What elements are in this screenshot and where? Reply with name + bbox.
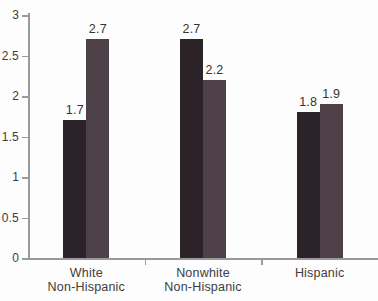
bar-value-label: 1.8 — [299, 95, 317, 109]
bar — [297, 112, 320, 258]
x-tick — [145, 258, 147, 265]
bar-value-label: 1.9 — [322, 87, 340, 101]
bar-value-label: 1.7 — [66, 103, 84, 117]
y-tick — [22, 258, 28, 260]
y-tick — [22, 218, 28, 220]
y-tick — [22, 137, 28, 139]
y-tick-label: 0.5 — [0, 210, 19, 224]
y-axis-line — [28, 13, 30, 258]
y-tick — [22, 15, 28, 17]
y-tick-label: 2 — [0, 89, 19, 103]
category-label: Nonwhite Non-Hispanic — [145, 266, 262, 294]
bar-value-label: 2.7 — [183, 22, 201, 36]
bar — [203, 80, 226, 258]
bar — [180, 39, 203, 258]
y-tick — [22, 177, 28, 179]
y-tick — [22, 96, 28, 98]
x-axis-line — [28, 258, 378, 260]
y-tick-label: 0 — [0, 251, 19, 265]
bar-value-label: 2.7 — [89, 22, 107, 36]
x-tick — [261, 258, 263, 265]
bar — [320, 104, 343, 258]
y-tick-label: 2.5 — [0, 48, 19, 62]
bar-chart: 00.511.522.531.72.7White Non-Hispanic2.7… — [0, 0, 378, 301]
category-label: White Non-Hispanic — [28, 266, 145, 294]
y-tick-label: 1.5 — [0, 129, 19, 143]
category-label: Hispanic — [261, 266, 378, 280]
y-tick-label: 3 — [0, 8, 19, 22]
bar-value-label: 2.2 — [206, 63, 224, 77]
bar — [63, 120, 86, 258]
y-tick-label: 1 — [0, 170, 19, 184]
bar — [86, 39, 109, 258]
y-tick — [22, 56, 28, 58]
